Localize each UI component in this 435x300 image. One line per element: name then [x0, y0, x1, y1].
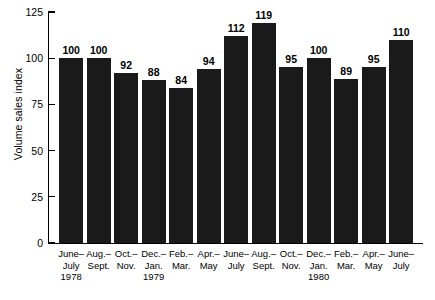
bar-value-label: 112	[228, 22, 245, 34]
bar-group[interactable]: 84	[169, 70, 193, 243]
y-tick-mark	[48, 58, 55, 59]
bar-value-label: 88	[148, 66, 160, 78]
bar-rect[interactable]	[307, 58, 331, 243]
bar-rect[interactable]	[362, 67, 386, 243]
bar-group[interactable]: 89	[334, 61, 358, 243]
bar-rect[interactable]	[224, 36, 248, 243]
bar-value-label: 100	[310, 44, 328, 56]
bar-chart-figure: Volume sales index 0255075100125 1001009…	[0, 0, 435, 300]
bar-rect[interactable]	[197, 69, 221, 243]
bar-group[interactable]: 100	[59, 40, 83, 243]
bar-value-label: 100	[90, 44, 108, 56]
bar-rect[interactable]	[334, 79, 358, 243]
bar-value-label: 95	[285, 53, 297, 65]
bar-value-label: 110	[393, 26, 410, 38]
bar-rect[interactable]	[142, 80, 166, 243]
bar-group[interactable]: 112	[224, 18, 248, 243]
bar-value-label: 95	[368, 53, 380, 65]
bar-value-label: 119	[255, 9, 272, 21]
bar-group[interactable]: 100	[87, 40, 111, 243]
bar-rect[interactable]	[389, 40, 413, 243]
bar-rect[interactable]	[252, 23, 276, 243]
bar-group[interactable]: 95	[279, 49, 303, 243]
bar-group[interactable]: 100	[307, 40, 331, 243]
bar-group[interactable]: 119	[252, 5, 276, 243]
bar-value-label: 89	[340, 65, 352, 77]
bar-value-label: 92	[120, 59, 132, 71]
y-tick-mark	[48, 104, 55, 105]
y-tick-mark	[48, 196, 55, 197]
bar-value-label: 84	[175, 74, 187, 86]
bar-group[interactable]: 94	[197, 51, 221, 243]
y-tick-mark	[48, 150, 55, 151]
y-tick-mark	[48, 11, 55, 12]
bar-rect[interactable]	[169, 88, 193, 243]
bar-rect[interactable]	[59, 58, 83, 243]
x-tick-label-line: 1979	[136, 271, 172, 283]
bar-group[interactable]: 92	[114, 55, 138, 243]
bar-value-label: 94	[203, 55, 215, 67]
x-tick-label-line: 1980	[301, 271, 337, 283]
bar-rect[interactable]	[279, 67, 303, 243]
bar-value-label: 100	[62, 44, 80, 56]
bar-group[interactable]: 95	[362, 49, 386, 243]
y-tick-mark	[48, 242, 55, 243]
bar-group[interactable]: 110	[389, 22, 413, 243]
x-tick-label-line: June–	[383, 248, 419, 260]
x-tick-label: June–July	[383, 248, 419, 271]
x-tick-label-line: 1978	[53, 271, 89, 283]
bar-group[interactable]: 88	[142, 62, 166, 243]
x-tick-label-line: July	[383, 260, 419, 272]
bar-rect[interactable]	[87, 58, 111, 243]
x-axis-labels: June–July1978Aug.–Sept.Oct.–Nov.Dec.–Jan…	[0, 248, 435, 300]
bar-rect[interactable]	[114, 73, 138, 243]
